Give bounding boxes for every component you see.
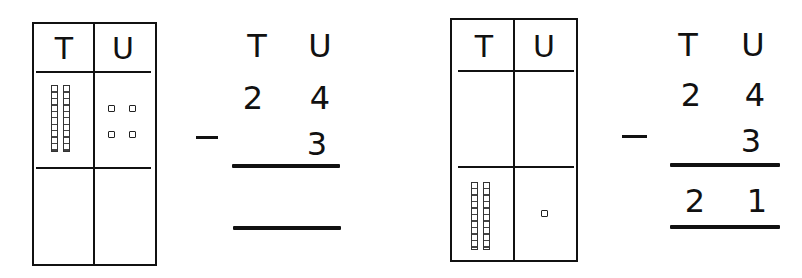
- answer-line-top: [232, 164, 340, 168]
- tu-divider: [513, 20, 515, 260]
- tens-rod-icon: [483, 182, 490, 250]
- tens-header: T: [242, 30, 272, 62]
- tens-header: T: [464, 32, 504, 62]
- left-place-value-chart: T U: [32, 22, 157, 266]
- answer-tens: 2: [680, 185, 710, 217]
- answer-line-bottom: [233, 226, 341, 230]
- unit-cube-icon: [108, 105, 115, 112]
- tens-header: T: [673, 29, 703, 61]
- unit-cube-icon: [129, 105, 136, 112]
- unit-cube-icon: [129, 131, 136, 138]
- tens-rod-icon: [51, 85, 58, 152]
- minus-sign: [196, 136, 218, 139]
- answer-line-top: [670, 163, 780, 167]
- units-header: U: [524, 32, 564, 62]
- minus-sign: [622, 135, 647, 138]
- answer-units: 1: [742, 185, 772, 217]
- middle-line: [36, 167, 151, 169]
- units-header: U: [305, 30, 335, 62]
- tens-rod-icon: [471, 182, 478, 250]
- minuend-units: 4: [740, 79, 770, 111]
- units-header: U: [738, 29, 768, 61]
- subtrahend-units: 3: [736, 125, 766, 157]
- tens-rod-icon: [63, 85, 70, 152]
- answer-line-bottom: [670, 225, 780, 229]
- minuend-tens: 2: [676, 79, 706, 111]
- header-line: [458, 70, 574, 72]
- subtrahend-units: 3: [302, 128, 332, 160]
- minuend-tens: 2: [238, 82, 268, 114]
- unit-cube-icon: [108, 131, 115, 138]
- units-header: U: [103, 34, 143, 64]
- header-line: [36, 71, 151, 73]
- tens-header: T: [44, 34, 84, 64]
- right-place-value-chart: T U: [450, 18, 578, 262]
- minuend-units: 4: [305, 82, 335, 114]
- tu-divider: [93, 24, 95, 264]
- unit-cube-icon: [541, 210, 548, 217]
- middle-line: [458, 166, 574, 168]
